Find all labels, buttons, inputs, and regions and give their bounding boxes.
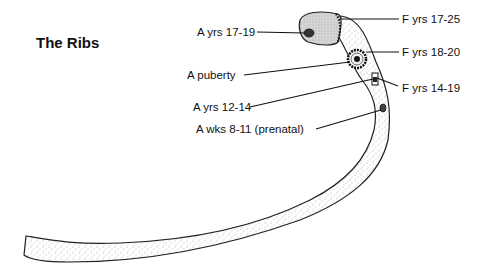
leader-a-puberty xyxy=(244,62,350,75)
label-a-yrs-12-14: A yrs 12-14 xyxy=(193,101,251,114)
label-a-yrs-17-19: A yrs 17-19 xyxy=(197,26,255,39)
rib-shaft xyxy=(24,16,390,262)
leader-a-12-14 xyxy=(250,79,373,107)
leader-a-wks-8-11 xyxy=(316,110,381,129)
leader-a-17-19 xyxy=(257,32,305,33)
center-a-17-19 xyxy=(304,29,314,37)
label-f-yrs-17-25: F yrs 17-25 xyxy=(402,13,460,26)
center-a-wks-8-11 xyxy=(380,104,386,112)
label-a-puberty: A puberty xyxy=(187,69,236,82)
center-a-puberty xyxy=(354,56,360,62)
rib-head xyxy=(299,12,341,45)
label-a-wks-8-11-prenatal: A wks 8-11 (prenatal) xyxy=(196,123,304,136)
label-f-yrs-14-19: F yrs 14-19 xyxy=(402,82,460,95)
diagram-title: The Ribs xyxy=(36,34,99,51)
label-f-yrs-18-20: F yrs 18-20 xyxy=(402,46,460,59)
